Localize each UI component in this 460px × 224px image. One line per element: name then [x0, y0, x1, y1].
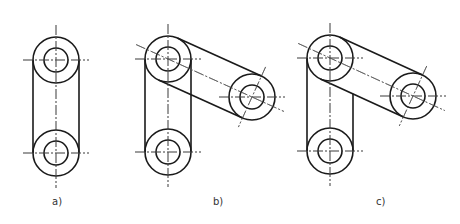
link-edge-upper [340, 37, 423, 75]
figure-label-b: b) [213, 196, 223, 207]
link-edge-lower [159, 80, 243, 118]
link-edge-upper [177, 38, 261, 76]
diagonal-centerline-overlay [298, 43, 445, 110]
link-edge-lower [320, 79, 403, 117]
figure-label-a: a) [52, 196, 62, 207]
diagonal-centerline-overlay [136, 45, 284, 112]
figure-label-c: c) [376, 196, 385, 207]
drawing-canvas [0, 0, 460, 224]
